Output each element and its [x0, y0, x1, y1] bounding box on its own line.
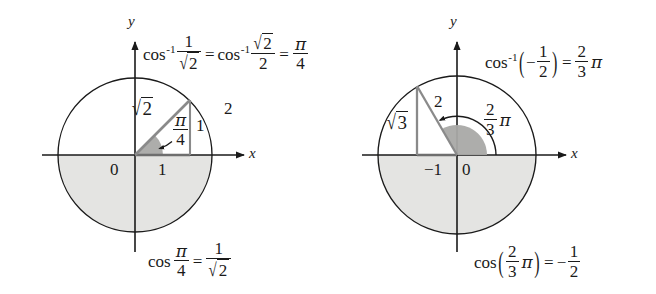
left-angle-label: π4 [172, 111, 189, 149]
left-y-axis-label: y [128, 14, 135, 29]
radical-root-two: √2 [179, 52, 199, 73]
fraction-pi-over-four: π4 [174, 242, 189, 280]
left-x-axis-label: x [249, 146, 256, 161]
open-paren: ( [519, 48, 524, 78]
figure-canvas: y x 0 1 1 2 √2 π4 cos-11√2=cos-1√22=π4 c… [0, 0, 656, 294]
fraction-root-two-over-two: √22 [251, 33, 275, 73]
right-angle-label: 23π [483, 101, 511, 139]
fraction-one-over-root-two: 1√2 [177, 33, 201, 73]
radical-root-three: √3 [386, 111, 408, 132]
fraction-one-half: 12 [568, 243, 581, 281]
close-paren: ) [534, 248, 539, 278]
left-diagram-group [42, 42, 244, 252]
left-origin-label: 0 [110, 161, 119, 178]
close-paren: ) [552, 48, 557, 78]
right-y-axis-label: y [450, 14, 457, 29]
right-top-equation: cos-1(−12)=23π [485, 43, 602, 81]
fraction-two-thirds: 23 [506, 243, 519, 281]
fraction-pi-over-four: π4 [173, 111, 188, 149]
right-minus-one-label: −1 [424, 161, 442, 178]
fraction-two-thirds: 23 [575, 43, 588, 81]
radical-root-two: √2 [253, 33, 273, 53]
fraction-pi-over-four: π4 [293, 35, 308, 73]
radical-root-two: √2 [131, 97, 153, 118]
right-vertical-leg-label: √3 [386, 111, 408, 132]
right-origin-label: 0 [462, 161, 471, 178]
left-hypotenuse-label: √2 [131, 97, 153, 118]
left-top-equation: cos-11√2=cos-1√22=π4 [143, 33, 309, 73]
left-extra-label: 2 [224, 100, 233, 117]
left-base-label: 1 [158, 161, 167, 178]
radical-root-two: √2 [208, 259, 228, 280]
fraction-two-thirds: 23 [484, 101, 497, 139]
left-bottom-equation: cosπ4=1√2 [148, 240, 232, 280]
open-paren: ( [498, 248, 503, 278]
fraction-one-over-root-two: 1√2 [206, 240, 230, 280]
right-x-axis-label: x [571, 146, 578, 161]
right-hypotenuse-label: 2 [434, 93, 443, 110]
right-bottom-equation: cos(23π)=−12 [474, 243, 581, 281]
fraction-one-half: 12 [537, 43, 550, 81]
left-vertical-leg-label: 1 [196, 117, 205, 134]
left-angle-arrow-arc [160, 142, 173, 149]
